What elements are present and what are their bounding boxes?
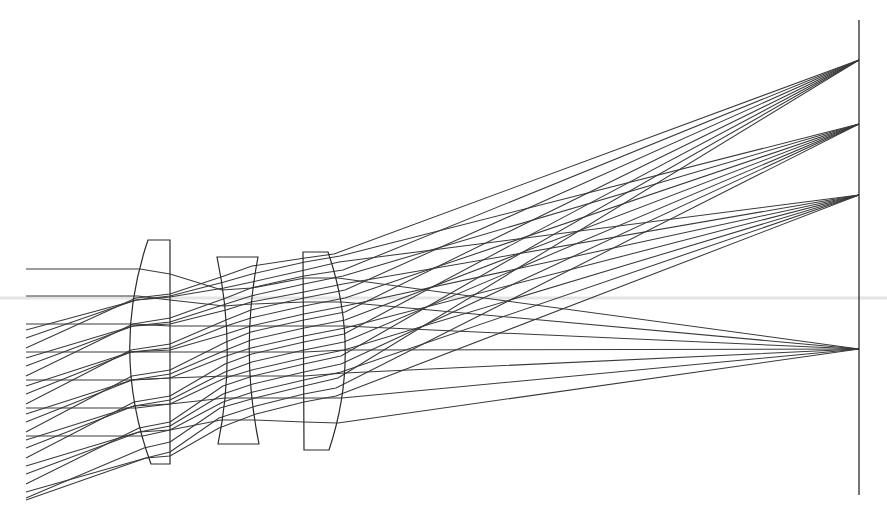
ray-diagram (0, 0, 887, 528)
rays-layer (26, 60, 859, 500)
ray-on-axis-2 (26, 296, 859, 349)
ray-field-2-4 (26, 124, 859, 422)
ray-field-1-1 (26, 195, 859, 330)
ray-field-1-3 (26, 195, 859, 386)
ray-on-axis-5 (26, 349, 859, 380)
ray-field-3-6 (26, 60, 859, 484)
ray-field-3-7 (26, 60, 859, 498)
ray-diagram-canvas (0, 0, 887, 528)
ray-field-3-1 (26, 60, 859, 348)
ray-bundle-field-3 (26, 60, 859, 498)
ray-bundle-on-axis (26, 269, 859, 436)
ray-on-axis-7 (26, 349, 859, 436)
ray-field-2-3 (26, 124, 859, 394)
ray-bundle-field-2 (26, 124, 859, 500)
ray-field-2-1 (26, 124, 859, 338)
ray-field-3-2 (26, 60, 859, 376)
ray-field-1-2 (26, 195, 859, 358)
ray-field-1-4 (26, 195, 859, 414)
ray-field-2-2 (26, 124, 859, 366)
ray-field-2-7 (26, 124, 859, 500)
ray-on-axis-3 (26, 324, 859, 349)
ray-field-3-5 (26, 60, 859, 458)
